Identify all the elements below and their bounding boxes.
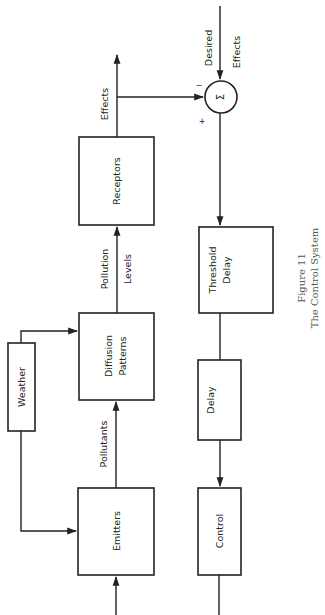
pollution-label-line2: Levels [122, 254, 133, 284]
weather-to-diffusion-arrow [21, 331, 77, 343]
control-system-diagram: Emitters Pollutants Diffusion Patterns P… [0, 0, 325, 615]
threshold-label-line2: Delay [221, 256, 232, 284]
pollution-label-line1: Pollution [99, 249, 110, 290]
threshold-delay-block: Threshold Delay [199, 227, 273, 313]
weather-to-emitters-arrow [21, 431, 76, 531]
control-block: Control [198, 488, 241, 575]
pollutants-label: Pollutants [98, 421, 109, 468]
emitters-block: Emitters [78, 488, 154, 575]
weather-block: Weather [8, 343, 35, 431]
plus-sign: + [199, 117, 206, 126]
diffusion-label-line1: Diffusion [103, 335, 114, 377]
diffusion-patterns-block: Diffusion Patterns [79, 313, 154, 400]
threshold-label-line1: Threshold [207, 247, 218, 295]
effects-label: Effects [99, 88, 110, 120]
control-label: Control [214, 514, 225, 548]
sigma-symbol: Σ [215, 94, 226, 100]
delay-block: Delay [198, 360, 241, 440]
desired-label-line1: Desired [203, 30, 214, 66]
desired-label-line2: Effects [231, 36, 242, 68]
receptors-label: Receptors [111, 157, 122, 205]
minus-sign: − [196, 81, 203, 90]
figure-title: The Control System [309, 227, 320, 328]
summing-junction: Σ [205, 81, 237, 113]
figure-number: Figure 11 [296, 253, 307, 303]
emitters-label: Emitters [111, 511, 122, 551]
weather-label: Weather [16, 367, 27, 407]
delay-label: Delay [205, 386, 216, 414]
diffusion-label-line2: Patterns [117, 336, 128, 375]
receptors-block: Receptors [79, 137, 154, 225]
